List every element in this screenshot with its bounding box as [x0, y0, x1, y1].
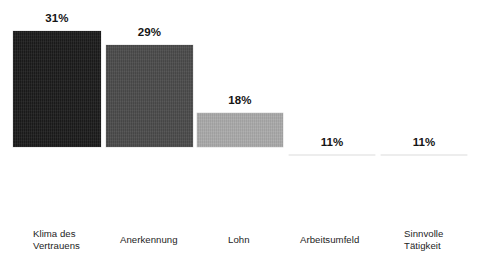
bar-slot-5: 11%: [381, 0, 467, 147]
clipped-bottom-caption: [18, 275, 458, 280]
bar-value-label-2: 29%: [106, 26, 193, 38]
bar-1[interactable]: [13, 31, 101, 147]
bar-slot-2: 29%: [106, 0, 193, 147]
category-label-sinnvolle-taetigkeit: Sinnvolle Tätigkeit: [404, 228, 476, 253]
bar-slot-3: 18%: [197, 0, 283, 147]
plot-area: 31% 29% 18% 11% 11%: [0, 0, 481, 214]
bar-3[interactable]: [197, 113, 283, 147]
category-label-arbeitsumfeld: Arbeitsumfeld: [300, 234, 390, 246]
bar-value-label-5: 11%: [381, 136, 467, 148]
category-label-lohn: Lohn: [228, 234, 288, 246]
bar-chart: 31% 29% 18% 11% 11% Klima des Vertrauens…: [0, 0, 481, 280]
bar-value-label-1: 31%: [13, 12, 101, 24]
bar-2[interactable]: [106, 45, 193, 147]
bar-slot-1: 31%: [13, 0, 101, 147]
category-label-anerkennung: Anerkennung: [120, 234, 210, 246]
bar-value-label-4: 11%: [289, 136, 375, 148]
bar-slot-4: 11%: [289, 0, 375, 147]
bar-value-label-3: 18%: [197, 94, 283, 106]
category-label-klima-des-vertrauens: Klima des Vertrauens: [33, 228, 113, 253]
